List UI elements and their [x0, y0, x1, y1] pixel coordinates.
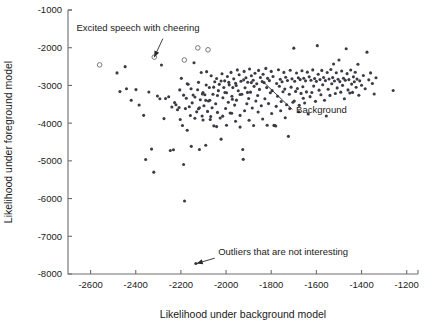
background-point — [235, 84, 238, 87]
background-point — [212, 86, 215, 89]
background-point — [317, 73, 320, 76]
background-point — [271, 75, 274, 78]
background-point — [288, 93, 291, 96]
background-point — [322, 76, 325, 79]
background-point — [330, 82, 333, 85]
background-point — [267, 102, 270, 105]
background-point — [115, 71, 118, 74]
annotation-label: Outliers that are not interesting — [218, 246, 348, 257]
background-point — [239, 126, 242, 129]
background-point — [220, 138, 223, 141]
y-tick-label: -2000 — [38, 42, 62, 53]
background-point — [338, 80, 341, 83]
background-point — [216, 111, 219, 114]
background-point — [147, 90, 150, 93]
plot-canvas: -1000-2000-3000-4000-5000-6000-7000-8000… — [0, 0, 440, 324]
background-point — [331, 76, 334, 79]
x-tick-label: -1400 — [349, 279, 373, 290]
background-point — [302, 77, 305, 80]
background-point — [284, 76, 287, 79]
background-point — [255, 82, 258, 85]
background-point — [229, 71, 232, 74]
background-point — [201, 119, 204, 122]
background-point — [310, 91, 313, 94]
background-point — [270, 112, 273, 115]
background-point — [162, 117, 165, 120]
y-axis-title: Likelihood under foreground model — [2, 61, 14, 223]
background-point — [335, 71, 338, 74]
background-point — [252, 124, 255, 127]
background-point — [358, 79, 361, 82]
background-point — [270, 70, 273, 73]
background-point — [199, 98, 202, 101]
background-point — [205, 70, 208, 73]
background-point — [347, 78, 350, 81]
background-point — [259, 76, 262, 79]
background-point — [325, 115, 328, 118]
background-point — [196, 88, 199, 91]
background-point — [275, 105, 278, 108]
background-point — [392, 89, 395, 92]
background-point — [174, 103, 177, 106]
background-point — [200, 71, 203, 74]
background-point — [296, 87, 299, 90]
background-point — [350, 83, 353, 86]
background-point — [284, 116, 287, 119]
background-point — [313, 77, 316, 80]
background-point — [214, 102, 217, 105]
background-point — [197, 81, 200, 84]
background-point — [205, 83, 208, 86]
background-point — [186, 129, 189, 132]
background-point — [247, 97, 250, 100]
background-point — [239, 93, 242, 96]
background-point — [211, 93, 214, 96]
background-point — [299, 78, 302, 81]
background-point — [209, 115, 212, 118]
background-point — [371, 82, 374, 85]
background-point — [244, 76, 247, 79]
background-point — [356, 63, 359, 66]
background-point — [355, 78, 358, 81]
background-point — [198, 148, 201, 151]
background-point — [254, 99, 257, 102]
background-point — [192, 61, 195, 64]
background-point — [324, 79, 327, 82]
background-point — [220, 79, 223, 82]
background-point — [233, 104, 236, 107]
background-point — [167, 95, 170, 98]
background-point — [278, 85, 281, 88]
background-point — [318, 89, 321, 92]
background-point — [213, 80, 216, 83]
background-point — [182, 163, 185, 166]
background-point — [222, 86, 225, 89]
background-point — [360, 84, 363, 87]
background-point — [351, 91, 354, 94]
x-tick-label: -1600 — [304, 279, 328, 290]
background-point — [232, 77, 235, 80]
background-point — [326, 71, 329, 74]
background-point — [118, 90, 121, 93]
background-point — [309, 79, 312, 82]
background-point — [250, 81, 253, 84]
background-point — [333, 79, 336, 82]
background-point — [144, 158, 147, 161]
background-point — [293, 99, 296, 102]
background-point — [308, 75, 311, 78]
background-point — [268, 79, 271, 82]
background-point — [245, 102, 248, 105]
background-point — [334, 92, 337, 95]
background-point — [223, 79, 226, 82]
background-point — [263, 97, 266, 100]
background-point — [290, 77, 293, 80]
excited-speech-annotation — [154, 39, 163, 57]
background-point — [256, 94, 259, 97]
background-point — [266, 124, 269, 127]
background-point — [241, 148, 244, 151]
background-point — [193, 117, 196, 120]
background-point — [124, 65, 127, 68]
background-point — [202, 104, 205, 107]
background-point — [183, 199, 186, 202]
scatter-plot-figure: -1000-2000-3000-4000-5000-6000-7000-8000… — [0, 0, 440, 324]
background-point — [237, 89, 240, 92]
background-point — [246, 91, 249, 94]
